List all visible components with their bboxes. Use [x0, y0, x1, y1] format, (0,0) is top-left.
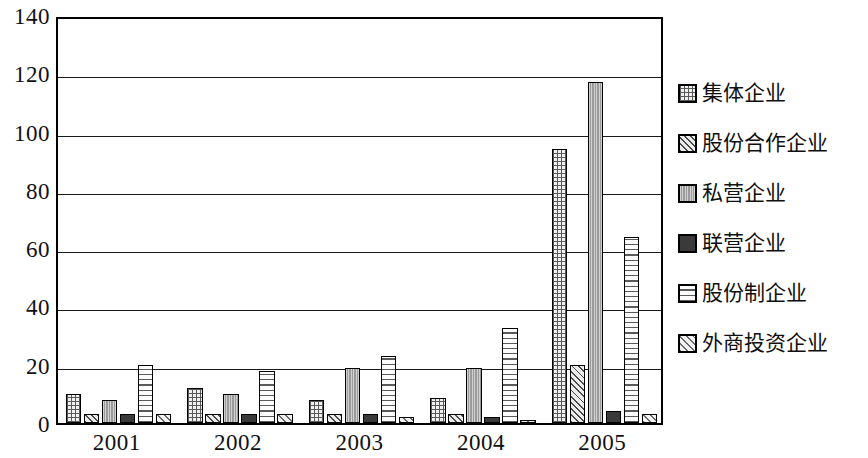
bar-group: [179, 19, 300, 423]
legend-swatch-icon: [678, 84, 697, 103]
legend-item-label: 私营企业: [702, 182, 786, 205]
bar: [502, 328, 518, 423]
legend-item-label: 外商投资企业: [702, 332, 828, 355]
legend-item-label: 股份合作企业: [702, 132, 828, 155]
legend-item: 股份制企业: [678, 268, 866, 318]
legend-swatch-icon: [678, 234, 697, 253]
legend-item: 集体企业: [678, 68, 866, 118]
y-axis-tick-label: 80: [2, 180, 50, 203]
y-axis-tick-label: 0: [2, 413, 50, 436]
legend-item-label: 联营企业: [702, 232, 786, 255]
legend-swatch-icon: [678, 134, 697, 153]
legend-swatch-icon: [678, 334, 697, 353]
chart-legend: 集体企业股份合作企业私营企业联营企业股份制企业外商投资企业: [678, 68, 866, 368]
bar: [84, 414, 100, 423]
legend-item: 外商投资企业: [678, 318, 866, 368]
bar-group: [58, 19, 179, 423]
legend-item: 联营企业: [678, 218, 866, 268]
y-axis-tick-label: 100: [2, 122, 50, 145]
bar: [520, 420, 536, 423]
bar: [642, 414, 658, 423]
bar: [102, 400, 118, 423]
bar: [187, 388, 203, 423]
bars-layer: [58, 19, 661, 423]
x-axis-tick-label: 2001: [56, 430, 177, 456]
bar: [430, 398, 446, 423]
x-axis-tick-label: 2002: [177, 430, 298, 456]
bar: [156, 414, 172, 423]
y-axis-tick-labels: 140120100806040200: [0, 0, 50, 458]
bar: [363, 414, 379, 423]
y-axis-tick-label: 140: [2, 5, 50, 28]
legend-item: 股份合作企业: [678, 118, 866, 168]
bar: [448, 414, 464, 423]
plot-area: [56, 17, 663, 425]
bar: [138, 365, 154, 423]
bar: [624, 237, 640, 424]
bar: [399, 417, 415, 423]
bar-chart: 140120100806040200 20012002200320042005 …: [0, 0, 868, 458]
bar: [466, 368, 482, 423]
bar-group: [544, 19, 665, 423]
bar: [345, 368, 361, 423]
bar: [570, 365, 586, 423]
bar-group: [422, 19, 543, 423]
y-axis-tick-label: 60: [2, 238, 50, 261]
legend-swatch-icon: [678, 184, 697, 203]
bar: [241, 414, 257, 423]
bar: [588, 82, 604, 423]
bar: [205, 414, 221, 423]
bar: [327, 414, 343, 423]
y-axis-tick-label: 120: [2, 63, 50, 86]
bar-group: [301, 19, 422, 423]
bar: [66, 394, 82, 423]
bar: [120, 414, 136, 423]
legend-item-label: 集体企业: [702, 82, 786, 105]
x-axis-tick-label: 2003: [299, 430, 420, 456]
y-axis-tick-label: 20: [2, 355, 50, 378]
bar: [309, 400, 325, 423]
bar: [381, 356, 397, 423]
bar: [277, 414, 293, 423]
legend-swatch-icon: [678, 284, 697, 303]
x-axis-tick-label: 2005: [542, 430, 663, 456]
bar: [223, 394, 239, 423]
x-axis-tick-label: 2004: [420, 430, 541, 456]
bar: [606, 411, 622, 423]
bar: [484, 417, 500, 423]
bar: [552, 149, 568, 423]
bar: [259, 371, 275, 423]
x-axis-tick-labels: 20012002200320042005: [56, 430, 663, 458]
legend-item-label: 股份制企业: [702, 282, 807, 305]
legend-item: 私营企业: [678, 168, 866, 218]
y-axis-tick-label: 40: [2, 296, 50, 319]
